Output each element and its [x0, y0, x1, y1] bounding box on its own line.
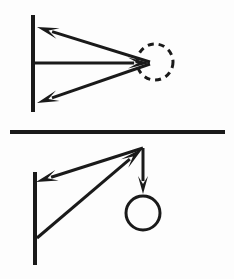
- mass-circle: [126, 196, 160, 230]
- bottom-panel: [35, 148, 160, 265]
- upper-left-arrow-shaft: [52, 32, 150, 62]
- apex-to-wall-arrow-shaft: [51, 148, 143, 177]
- diagram-svg: [0, 0, 234, 279]
- figure-container: [0, 0, 234, 279]
- wall-base-to-apex-arrow-shaft: [37, 159, 130, 238]
- lower-left-arrow-shaft: [52, 64, 150, 98]
- top-panel: [33, 15, 173, 112]
